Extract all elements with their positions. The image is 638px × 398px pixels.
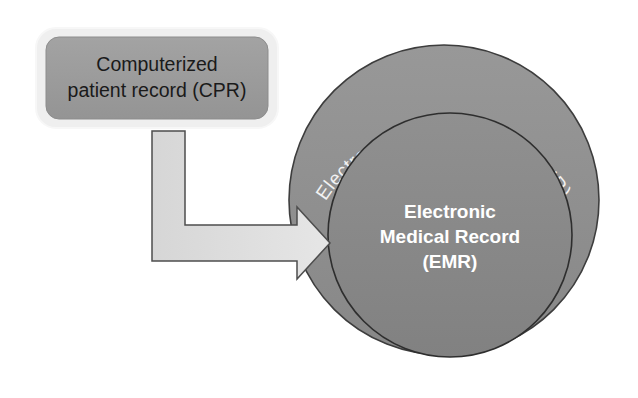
diagram-canvas: Electronic Health Record (EHR) Electroni… bbox=[0, 0, 638, 398]
emr-label-line1: Electronic bbox=[404, 201, 496, 222]
inner-circle-emr: Electronic Medical Record (EMR) bbox=[328, 113, 572, 357]
cpr-box-panel bbox=[46, 37, 268, 119]
diagram-svg: Electronic Health Record (EHR) Electroni… bbox=[0, 0, 638, 398]
emr-label-line2: Medical Record bbox=[380, 226, 520, 247]
cpr-box: Computerized patient record (CPR) bbox=[36, 28, 278, 128]
cpr-label-line2: patient record (CPR) bbox=[68, 79, 247, 101]
cpr-label-line1: Computerized bbox=[96, 53, 217, 75]
emr-label-line3: (EMR) bbox=[423, 251, 478, 272]
